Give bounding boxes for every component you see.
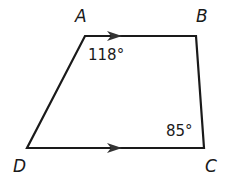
vertex-label-d: D xyxy=(13,156,26,176)
vertex-label-a: A xyxy=(74,6,87,26)
angle-label-a: 118° xyxy=(88,46,124,64)
trapezoid-diagram: A B C D 118° 85° xyxy=(0,0,230,185)
vertex-label-b: B xyxy=(196,6,208,26)
vertex-label-c: C xyxy=(205,156,217,176)
angle-label-c: 85° xyxy=(166,122,193,140)
